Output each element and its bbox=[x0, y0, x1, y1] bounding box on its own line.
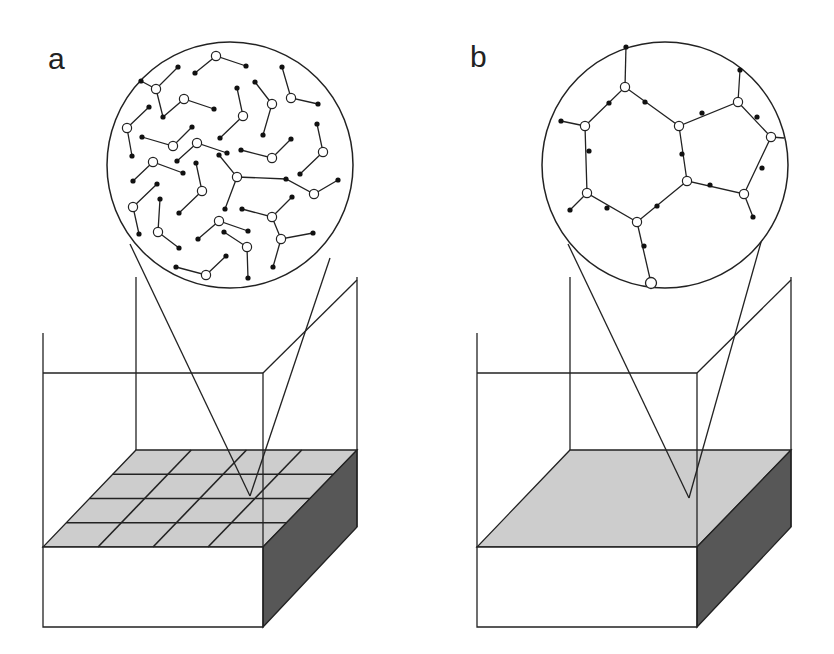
end-group-dot bbox=[223, 253, 228, 258]
end-group-dot bbox=[335, 177, 340, 182]
end-group-dot bbox=[297, 171, 302, 176]
branch-node bbox=[151, 84, 160, 93]
end-group-dot bbox=[245, 228, 250, 233]
magnified-circle bbox=[542, 42, 788, 288]
end-group-dot bbox=[216, 152, 221, 157]
branch-node bbox=[192, 138, 201, 147]
branch-node bbox=[267, 212, 276, 221]
end-group-dot bbox=[195, 236, 200, 241]
branch-node bbox=[580, 121, 589, 130]
branch-node bbox=[309, 189, 318, 198]
end-group-dot bbox=[238, 147, 243, 152]
end-group-dot bbox=[279, 64, 284, 69]
branch-node bbox=[733, 97, 742, 106]
branch-node-large bbox=[646, 278, 657, 289]
branch-node bbox=[267, 153, 276, 162]
container-panel-b bbox=[477, 277, 791, 627]
end-group-dot bbox=[224, 150, 229, 155]
branch-node bbox=[197, 186, 206, 195]
end-group-dot bbox=[314, 121, 319, 126]
branch-node bbox=[168, 141, 177, 150]
branch-node bbox=[766, 132, 775, 141]
end-group-dot bbox=[315, 101, 320, 106]
end-group-dot bbox=[606, 100, 611, 105]
branch-node bbox=[267, 99, 276, 108]
end-group-dot bbox=[288, 136, 293, 141]
end-group-dot bbox=[260, 132, 265, 137]
end-group-dot bbox=[180, 170, 185, 175]
end-group-dot bbox=[654, 203, 659, 208]
end-group-dot bbox=[175, 64, 180, 69]
end-group-dot bbox=[130, 178, 135, 183]
end-group-dot bbox=[586, 148, 591, 153]
zoom-view-a bbox=[107, 42, 353, 496]
zoom-view-b bbox=[542, 42, 788, 498]
branch-node bbox=[128, 202, 137, 211]
end-group-dot bbox=[239, 206, 244, 211]
branch-node bbox=[276, 234, 285, 243]
end-group-dot bbox=[173, 264, 178, 269]
end-group-dot bbox=[176, 210, 181, 215]
end-group-dot bbox=[129, 153, 134, 158]
gel-front-face bbox=[43, 547, 263, 627]
end-group-dot bbox=[222, 206, 227, 211]
end-group-dot bbox=[641, 243, 646, 248]
branch-node bbox=[232, 172, 241, 181]
end-group-dot bbox=[189, 124, 194, 129]
end-group-dot bbox=[245, 275, 250, 280]
gel-front-face bbox=[477, 547, 697, 627]
end-group-dot bbox=[136, 231, 141, 236]
end-group-dot bbox=[174, 158, 179, 163]
end-group-dot bbox=[176, 245, 181, 250]
end-group-dot bbox=[310, 230, 315, 235]
end-group-dot bbox=[283, 176, 288, 181]
end-group-dot bbox=[211, 106, 216, 111]
end-group-dot bbox=[252, 79, 257, 84]
branch-node bbox=[153, 227, 162, 236]
end-group-dot bbox=[289, 194, 294, 199]
branch-node bbox=[122, 123, 131, 132]
end-group-dot bbox=[243, 63, 248, 68]
branch-node bbox=[318, 147, 327, 156]
end-group-dot bbox=[558, 118, 563, 123]
branch-node bbox=[286, 93, 295, 102]
branch-node bbox=[620, 82, 629, 91]
branch-node bbox=[179, 94, 188, 103]
end-group-dot bbox=[754, 114, 759, 119]
end-group-dot bbox=[759, 165, 764, 170]
branch-node bbox=[682, 176, 691, 185]
diagram-figure bbox=[0, 0, 834, 654]
end-group-dot bbox=[567, 207, 572, 212]
branch-node bbox=[211, 51, 220, 60]
end-group-dot bbox=[707, 182, 712, 187]
end-group-dot bbox=[154, 181, 159, 186]
container-rim-side bbox=[697, 280, 791, 373]
branch-node bbox=[582, 188, 591, 197]
container-rim-side bbox=[263, 280, 357, 373]
end-group-dot bbox=[679, 151, 684, 156]
branch-node bbox=[201, 270, 210, 279]
end-group-dot bbox=[139, 134, 144, 139]
branch-node bbox=[739, 189, 748, 198]
end-group-dot bbox=[160, 114, 165, 119]
end-group-dot bbox=[699, 110, 704, 115]
branch-node bbox=[238, 111, 247, 120]
end-group-dot bbox=[221, 229, 226, 234]
end-group-dot bbox=[146, 104, 151, 109]
end-group-dot bbox=[157, 196, 162, 201]
end-group-dot bbox=[217, 135, 222, 140]
end-group-dot bbox=[604, 205, 609, 210]
branch-node bbox=[148, 157, 157, 166]
branch-node bbox=[242, 242, 251, 251]
branch-node bbox=[632, 217, 641, 226]
container-panel-a bbox=[43, 277, 357, 627]
end-group-dot bbox=[193, 160, 198, 165]
end-group-dot bbox=[642, 99, 647, 104]
end-group-dot bbox=[138, 78, 143, 83]
end-group-dot bbox=[234, 85, 239, 90]
end-group-dot bbox=[750, 214, 755, 219]
magnified-circle bbox=[107, 42, 353, 288]
branch-node bbox=[214, 216, 223, 225]
end-group-dot bbox=[270, 264, 275, 269]
end-group-dot bbox=[737, 67, 742, 72]
